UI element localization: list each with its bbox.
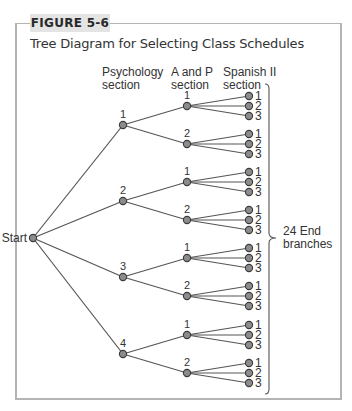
branch-line xyxy=(187,258,249,268)
branch-line xyxy=(187,172,249,182)
branch-line xyxy=(33,125,123,238)
anp-section-label: 1 xyxy=(184,241,190,253)
psychology-node xyxy=(119,121,126,128)
branch-line xyxy=(187,373,249,383)
spanish-section-label: 3 xyxy=(255,223,262,237)
spanish-section-label: 3 xyxy=(255,261,262,275)
spanish-section-label: 3 xyxy=(255,109,262,123)
branch-line xyxy=(187,182,249,192)
spanish-section-label: 3 xyxy=(255,338,262,352)
anp-node xyxy=(183,254,190,261)
branch-line xyxy=(123,277,187,296)
spanish-section-label: 3 xyxy=(255,147,262,161)
end-branches-annotation: 24 Endbranches xyxy=(283,224,332,251)
curly-brace xyxy=(265,84,276,394)
branch-line xyxy=(187,248,249,258)
spanish-leaf-node xyxy=(245,130,252,137)
spanish-leaf-node xyxy=(245,254,252,261)
anp-node xyxy=(183,292,190,299)
node-labels: Start11123212321123212331123212341123212… xyxy=(2,89,262,390)
psychology-section-label: 4 xyxy=(120,337,126,349)
anp-section-label: 2 xyxy=(184,279,190,291)
spanish-leaf-node xyxy=(245,341,252,348)
spanish-leaf-node xyxy=(245,226,252,233)
tree-diagram: Start11123212321123212331123212341123212… xyxy=(0,0,352,411)
branch-line xyxy=(187,96,249,106)
spanish-leaf-node xyxy=(245,379,252,386)
branch-line xyxy=(123,182,187,201)
branch-line xyxy=(187,335,249,345)
branch-line xyxy=(187,106,249,116)
spanish-leaf-node xyxy=(245,206,252,213)
anp-node xyxy=(183,178,190,185)
spanish-leaf-node xyxy=(245,216,252,223)
anp-node xyxy=(183,369,190,376)
spanish-leaf-node xyxy=(245,321,252,328)
branch-line xyxy=(123,201,187,220)
branch-line xyxy=(187,144,249,154)
branch-line xyxy=(123,106,187,125)
branch-line xyxy=(123,335,187,354)
spanish-section-label: 3 xyxy=(255,299,262,313)
branch-line xyxy=(123,258,187,277)
end-branches-line1: 24 End xyxy=(283,224,321,238)
spanish-leaf-node xyxy=(245,92,252,99)
branch-line xyxy=(187,220,249,230)
spanish-leaf-node xyxy=(245,244,252,251)
anp-section-label: 2 xyxy=(184,356,190,368)
spanish-leaf-node xyxy=(245,188,252,195)
psychology-section-label: 2 xyxy=(120,184,126,196)
branch-lines xyxy=(33,96,249,383)
branch-line xyxy=(33,238,123,354)
spanish-leaf-node xyxy=(245,369,252,376)
psychology-node xyxy=(119,273,126,280)
spanish-leaf-node xyxy=(245,359,252,366)
spanish-leaf-node xyxy=(245,112,252,119)
anp-section-label: 1 xyxy=(184,318,190,330)
branch-line xyxy=(187,296,249,306)
psychology-node xyxy=(119,197,126,204)
branch-line xyxy=(187,325,249,335)
spanish-section-label: 3 xyxy=(255,376,262,390)
branch-line xyxy=(187,363,249,373)
branch-line xyxy=(33,238,123,277)
spanish-section-label: 3 xyxy=(255,185,262,199)
anp-node xyxy=(183,140,190,147)
anp-node xyxy=(183,331,190,338)
branch-line xyxy=(123,354,187,373)
anp-node xyxy=(183,216,190,223)
anp-section-label: 1 xyxy=(184,89,190,101)
branch-line xyxy=(33,201,123,238)
spanish-leaf-node xyxy=(245,264,252,271)
branch-line xyxy=(187,286,249,296)
spanish-leaf-node xyxy=(245,292,252,299)
start-node xyxy=(29,234,36,241)
anp-section-label: 1 xyxy=(184,165,190,177)
end-branches-line2: branches xyxy=(283,237,332,251)
branch-line xyxy=(187,210,249,220)
spanish-leaf-node xyxy=(245,178,252,185)
branch-line xyxy=(187,134,249,144)
spanish-leaf-node xyxy=(245,140,252,147)
spanish-leaf-node xyxy=(245,150,252,157)
spanish-leaf-node xyxy=(245,331,252,338)
spanish-leaf-node xyxy=(245,102,252,109)
spanish-leaf-node xyxy=(245,168,252,175)
tree-nodes xyxy=(29,92,252,386)
anp-section-label: 2 xyxy=(184,203,190,215)
branch-line xyxy=(123,125,187,144)
psychology-section-label: 3 xyxy=(120,260,126,272)
psychology-node xyxy=(119,350,126,357)
start-label: Start xyxy=(2,231,28,245)
spanish-leaf-node xyxy=(245,282,252,289)
spanish-leaf-node xyxy=(245,302,252,309)
anp-node xyxy=(183,102,190,109)
psychology-section-label: 1 xyxy=(120,108,126,120)
anp-section-label: 2 xyxy=(184,127,190,139)
